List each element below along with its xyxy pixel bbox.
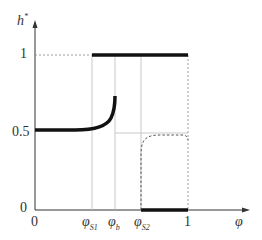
x-axis-arrow-icon bbox=[242, 208, 250, 213]
x-axis-label: φ bbox=[235, 214, 243, 230]
x-tick-phiS1: φS1 bbox=[82, 214, 98, 232]
y-tick-05: 0.5 bbox=[12, 124, 30, 140]
y-tick-0: 0 bbox=[20, 200, 27, 216]
y-tick-1: 1 bbox=[20, 46, 27, 62]
x-tick-0: 0 bbox=[31, 214, 38, 230]
x-tick-phib: φb bbox=[108, 214, 120, 232]
x-tick-1: 1 bbox=[184, 214, 191, 230]
x-tick-phiS2: φS2 bbox=[134, 214, 150, 232]
y-axis-label: h* bbox=[17, 12, 28, 29]
y-axis-arrow-icon bbox=[33, 20, 38, 28]
lower-branch bbox=[35, 96, 115, 130]
unstable-branch bbox=[141, 135, 188, 210]
plot-area bbox=[0, 0, 262, 240]
